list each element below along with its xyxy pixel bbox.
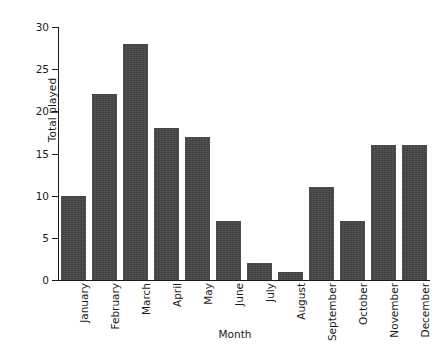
x-tick-label: April <box>171 283 183 307</box>
cropped-top-text <box>10 0 310 5</box>
bar[interactable] <box>309 187 334 280</box>
bar-series <box>58 27 430 280</box>
x-tick-label: March <box>140 283 152 315</box>
x-tick-label: June <box>233 283 245 306</box>
bar[interactable] <box>92 94 117 280</box>
bar[interactable] <box>278 272 303 280</box>
x-tick-label: September <box>326 283 338 341</box>
y-tick-label: 10 <box>36 190 49 202</box>
x-tick-label: October <box>357 283 369 325</box>
y-tick-label: 20 <box>36 105 49 117</box>
x-tick-label: January <box>78 283 90 323</box>
y-tick-label: 30 <box>36 21 49 33</box>
x-axis-line <box>58 280 430 281</box>
bar[interactable] <box>216 221 241 280</box>
bar[interactable] <box>402 145 427 280</box>
bar[interactable] <box>371 145 396 280</box>
bar[interactable] <box>154 128 179 280</box>
bar-chart-figure: Total played 051015202530 JanuaryFebruar… <box>0 0 437 345</box>
x-tick-label: February <box>109 283 121 330</box>
y-tick-label: 0 <box>42 274 49 286</box>
y-tick-label: 25 <box>36 63 49 75</box>
x-tick-label: July <box>264 283 276 302</box>
bar[interactable] <box>247 263 272 280</box>
bar[interactable] <box>61 196 86 280</box>
bar[interactable] <box>185 137 210 280</box>
y-tick-label: 15 <box>36 148 49 160</box>
x-axis-title: Month <box>150 328 320 340</box>
x-tick-label: August <box>295 283 307 320</box>
y-tick-label: 5 <box>42 232 49 244</box>
x-tick-label: November <box>388 283 400 338</box>
plot-area: 051015202530 <box>58 27 430 280</box>
y-tick-mark <box>52 280 58 281</box>
bar[interactable] <box>340 221 365 280</box>
x-tick-label: December <box>419 283 431 337</box>
bar[interactable] <box>123 44 148 280</box>
x-tick-label: May <box>202 283 214 305</box>
